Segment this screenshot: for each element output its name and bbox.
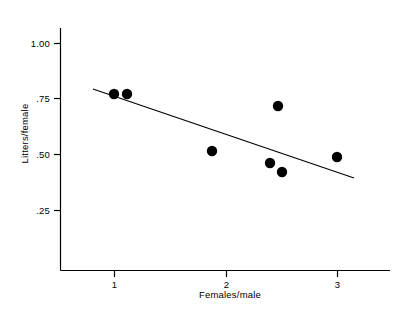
plot-canvas — [0, 0, 396, 314]
data-point — [277, 167, 287, 177]
data-point — [332, 152, 342, 162]
y-tick-label-0.75: .75 — [10, 93, 50, 104]
data-points — [109, 89, 342, 177]
data-point — [273, 101, 283, 111]
data-point — [207, 146, 217, 156]
y-tick-label-0.25: .25 — [10, 205, 50, 216]
data-point — [122, 89, 132, 99]
data-point — [265, 158, 275, 168]
y-axis-title: Litters/female — [19, 74, 30, 194]
regression-line — [93, 89, 354, 178]
y-tick-label-1.00: 1.00 — [10, 38, 50, 49]
x-axis-ticks — [115, 271, 338, 278]
scatter-plot-figure: 1.00 .75 .50 .25 1 2 3 Litters/female Fe… — [0, 0, 396, 314]
x-axis-title: Females/male — [120, 289, 340, 300]
data-point — [109, 89, 119, 99]
y-tick-label-0.50: .50 — [10, 149, 50, 160]
y-axis-ticks — [54, 44, 61, 211]
